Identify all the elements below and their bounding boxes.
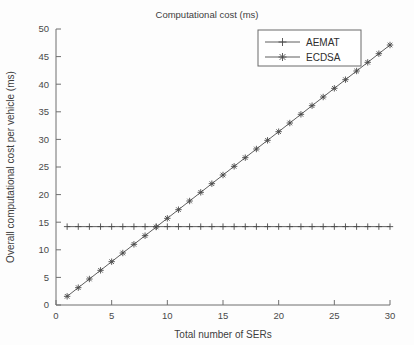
y-tick-label: 40 <box>38 79 49 90</box>
asterisk-marker-icon <box>64 293 70 299</box>
legend-label-aemat: AEMAT <box>306 37 340 48</box>
asterisk-marker-icon <box>108 258 114 264</box>
asterisk-marker-icon <box>309 102 315 108</box>
x-tick-label: 30 <box>385 310 396 321</box>
x-axis-title: Total number of SERs <box>174 329 271 340</box>
y-tick-label: 5 <box>44 272 49 283</box>
chart-title: Computational cost (ms) <box>156 9 259 20</box>
asterisk-marker-icon <box>209 180 215 186</box>
chart-figure: Computational cost (ms) Total number of … <box>0 0 414 345</box>
x-tick-label: 25 <box>329 310 340 321</box>
asterisk-marker-icon <box>387 42 393 48</box>
legend-label-ecdsa: ECDSA <box>306 52 341 63</box>
y-tick-label: 45 <box>38 51 49 62</box>
x-tick-label: 5 <box>109 310 114 321</box>
y-tick-label: 10 <box>38 244 49 255</box>
asterisk-marker-icon <box>220 172 226 178</box>
asterisk-marker-icon <box>242 154 248 160</box>
asterisk-marker-icon <box>131 241 137 247</box>
asterisk-marker-icon <box>275 128 281 134</box>
x-tick-label: 15 <box>218 310 229 321</box>
x-tick-label: 10 <box>162 310 173 321</box>
asterisk-marker-icon <box>153 224 159 230</box>
asterisk-marker-icon <box>320 94 326 100</box>
asterisk-marker-icon <box>75 284 81 290</box>
y-tick-label: 15 <box>38 217 49 228</box>
y-tick-label: 25 <box>38 161 49 172</box>
asterisk-marker-icon <box>120 250 126 256</box>
asterisk-marker-icon <box>298 111 304 117</box>
asterisk-marker-icon <box>264 137 270 143</box>
asterisk-marker-icon <box>353 68 359 74</box>
y-tick-label: 0 <box>44 299 49 310</box>
x-tick-label: 0 <box>53 310 58 321</box>
asterisk-marker-icon <box>198 189 204 195</box>
asterisk-marker-icon <box>164 215 170 221</box>
asterisk-marker-icon <box>175 206 181 212</box>
asterisk-marker-icon <box>342 76 348 82</box>
asterisk-marker-icon <box>253 146 259 152</box>
computational-cost-line-chart: Computational cost (ms) Total number of … <box>0 0 414 345</box>
y-tick-label: 35 <box>38 106 49 117</box>
asterisk-marker-icon <box>231 163 237 169</box>
asterisk-marker-icon <box>287 120 293 126</box>
asterisk-marker-icon <box>376 50 382 56</box>
chart-legend[interactable]: AEMAT ECDSA <box>258 30 361 66</box>
y-tick-label: 50 <box>38 23 49 34</box>
y-tick-label: 30 <box>38 134 49 145</box>
x-tick-label: 20 <box>273 310 284 321</box>
asterisk-marker-icon <box>142 232 148 238</box>
y-tick-label: 20 <box>38 189 49 200</box>
asterisk-marker-icon <box>86 276 92 282</box>
asterisk-marker-icon <box>365 59 371 65</box>
asterisk-marker-icon <box>279 53 287 61</box>
y-axis-title: Overall computational cost per vehicle (… <box>5 71 16 263</box>
asterisk-marker-icon <box>331 85 337 91</box>
asterisk-marker-icon <box>97 267 103 273</box>
asterisk-marker-icon <box>186 198 192 204</box>
